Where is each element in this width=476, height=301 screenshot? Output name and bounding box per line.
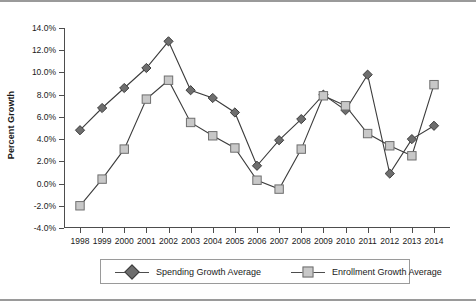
x-tick-label: 2000 <box>115 236 134 246</box>
x-tick <box>102 228 103 233</box>
y-axis-title-text: Percent Growth <box>6 91 16 159</box>
x-tick <box>146 228 147 233</box>
data-point-diamond <box>385 169 394 178</box>
y-tick-label: 4.0% <box>37 134 56 144</box>
legend-swatch-diamond-icon <box>115 266 149 278</box>
x-tick <box>412 228 413 233</box>
series-svg <box>64 28 450 228</box>
x-tick-label: 2008 <box>292 236 311 246</box>
x-tick <box>80 228 81 233</box>
data-point-diamond <box>230 108 239 117</box>
data-point-square <box>98 175 106 183</box>
data-point-square <box>186 118 194 126</box>
y-tick-label: 12.0% <box>32 45 56 55</box>
data-point-square <box>76 202 84 210</box>
series-enrollment <box>76 76 438 210</box>
data-point-diamond <box>429 121 438 130</box>
x-tick <box>301 228 302 233</box>
data-point-diamond <box>363 70 372 79</box>
x-tick <box>124 228 125 233</box>
series-layer <box>64 28 450 228</box>
x-tick-label: 2013 <box>402 236 421 246</box>
x-tick <box>169 228 170 233</box>
legend-item-enrollment: Enrollment Growth Average <box>291 266 442 278</box>
data-point-diamond <box>208 93 217 102</box>
legend-item-spending: Spending Growth Average <box>115 266 261 278</box>
data-point-square <box>408 152 416 160</box>
chart-legend: Spending Growth Average Enrollment Growt… <box>100 259 410 284</box>
x-tick-label: 2011 <box>358 236 376 246</box>
data-point-square <box>430 80 438 88</box>
x-tick-label: 2010 <box>336 236 355 246</box>
data-point-square <box>363 129 371 137</box>
x-tick-label: 2002 <box>159 236 178 246</box>
legend-swatch-square-icon <box>291 266 325 278</box>
x-tick-label: 2007 <box>270 236 289 246</box>
data-point-diamond <box>407 135 416 144</box>
data-point-square <box>341 102 349 110</box>
legend-label-enrollment: Enrollment Growth Average <box>332 267 442 277</box>
y-tick-label: 6.0% <box>37 112 56 122</box>
series-line <box>80 80 434 206</box>
data-point-diamond <box>186 86 195 95</box>
data-point-square <box>275 185 283 193</box>
y-tick-label: -2.0% <box>34 201 56 211</box>
plot-area: 14.0%12.0%10.0%8.0%6.0%4.0%2.0%0.0%-2.0%… <box>64 28 450 228</box>
y-tick-label: 14.0% <box>32 23 56 33</box>
series-line <box>80 41 434 173</box>
x-tick-label: 2012 <box>380 236 399 246</box>
x-tick <box>368 228 369 233</box>
series-spending <box>75 37 438 178</box>
data-point-square <box>120 145 128 153</box>
x-tick <box>346 228 347 233</box>
y-tick-label: 2.0% <box>37 156 56 166</box>
chart-figure: Percent Growth 14.0%12.0%10.0%8.0%6.0%4.… <box>0 0 476 301</box>
y-tick-label: -4.0% <box>34 223 56 233</box>
y-axis-title: Percent Growth <box>2 60 20 190</box>
x-tick-label: 1999 <box>93 236 112 246</box>
x-tick-label: 1998 <box>71 236 90 246</box>
x-tick-label: 2005 <box>225 236 244 246</box>
data-point-square <box>253 176 261 184</box>
x-tick <box>213 228 214 233</box>
data-point-square <box>319 92 327 100</box>
legend-label-spending: Spending Growth Average <box>156 267 261 277</box>
y-tick-label: 0.0% <box>37 179 56 189</box>
x-tick-label: 2014 <box>425 236 444 246</box>
x-tick-label: 2001 <box>137 236 156 246</box>
x-tick <box>257 228 258 233</box>
x-tick <box>323 228 324 233</box>
x-tick <box>279 228 280 233</box>
x-tick-label: 2006 <box>248 236 267 246</box>
data-point-square <box>386 142 394 150</box>
x-tick-label: 2004 <box>203 236 222 246</box>
x-tick <box>191 228 192 233</box>
data-point-square <box>142 95 150 103</box>
data-point-square <box>231 144 239 152</box>
x-tick <box>434 228 435 233</box>
data-point-square <box>164 76 172 84</box>
y-tick-label: 8.0% <box>37 90 56 100</box>
x-tick-label: 2009 <box>314 236 333 246</box>
y-tick <box>59 228 64 229</box>
data-point-square <box>209 132 217 140</box>
x-tick-label: 2003 <box>181 236 200 246</box>
x-tick <box>390 228 391 233</box>
y-tick-label: 10.0% <box>32 67 56 77</box>
x-tick <box>235 228 236 233</box>
data-point-square <box>297 145 305 153</box>
